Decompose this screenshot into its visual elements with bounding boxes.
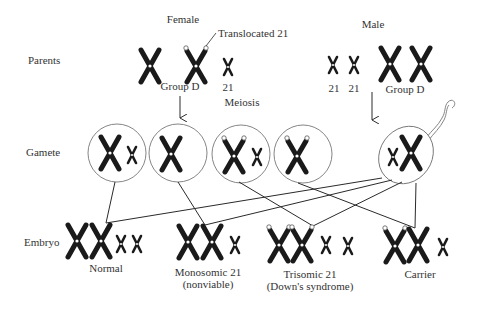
embryo-trisomic bbox=[267, 225, 352, 261]
gamete-egg-4 bbox=[274, 125, 332, 183]
gamete-egg-2 bbox=[149, 124, 207, 182]
gamete-sperm bbox=[367, 100, 454, 194]
male-21-label-1: 21 bbox=[329, 82, 340, 94]
male-chromosomes bbox=[329, 48, 430, 80]
gamete-egg-3 bbox=[212, 125, 270, 183]
female-group-d-chromosome bbox=[141, 50, 159, 82]
row-label-embryo: Embryo bbox=[24, 236, 59, 248]
embryo-normal bbox=[68, 225, 141, 257]
embryo-monosomic-sublabel: (nonviable) bbox=[183, 278, 234, 290]
female-translocated-chromosome bbox=[184, 46, 208, 82]
embryo-carrier bbox=[383, 226, 447, 262]
male-21-chromosome-2 bbox=[350, 57, 358, 73]
line-carrier bbox=[298, 183, 416, 228]
female-21-chromosome bbox=[224, 59, 232, 75]
male-group-d-label: Group D bbox=[386, 83, 425, 95]
embryo-monosomic bbox=[179, 226, 239, 258]
female-label: Female bbox=[167, 13, 199, 25]
row-label-gamete: Gamete bbox=[26, 146, 60, 158]
male-group-d-chromosome-1 bbox=[381, 48, 399, 80]
male-label: Male bbox=[362, 18, 385, 30]
translocated-annotation: Translocated 21 bbox=[218, 27, 288, 39]
line-trisomic bbox=[239, 182, 402, 226]
diagram-canvas bbox=[0, 0, 494, 311]
embryo-monosomic-label: Monosomic 21 bbox=[175, 266, 241, 278]
fertilization-lines bbox=[106, 178, 416, 228]
male-21-label-2: 21 bbox=[349, 82, 360, 94]
embryo-trisomic-sublabel: (Down's syndrome) bbox=[267, 280, 354, 292]
annotation-leader-line bbox=[206, 33, 216, 46]
female-21-label: 21 bbox=[223, 81, 234, 93]
male-21-chromosome-1 bbox=[329, 57, 337, 73]
embryo-carrier-label: Carrier bbox=[404, 268, 435, 280]
row-label-parents: Parents bbox=[28, 54, 60, 66]
embryo-normal-label: Normal bbox=[89, 262, 123, 274]
meiosis-label: Meiosis bbox=[225, 96, 260, 108]
male-group-d-chromosome-2 bbox=[412, 48, 430, 80]
female-chromosomes bbox=[141, 46, 232, 82]
gamete-egg-1 bbox=[88, 124, 146, 182]
embryo-trisomic-label: Trisomic 21 bbox=[283, 268, 336, 280]
female-group-d-label: Group D bbox=[161, 80, 200, 92]
